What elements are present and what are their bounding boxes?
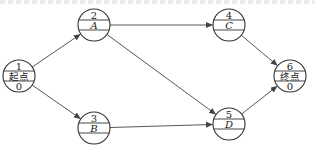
node-4: 4C	[213, 9, 245, 41]
edge-3-to-5	[110, 124, 213, 127]
nodes: 1起点02A3B4C5D6终点0	[3, 9, 306, 144]
node-label: D	[224, 119, 233, 130]
node-label: C	[225, 20, 233, 31]
edge-2-to-5	[107, 34, 216, 114]
edges	[32, 25, 277, 128]
network-diagram: 1起点02A3B4C5D6终点0	[0, 0, 315, 151]
node-label: A	[89, 20, 97, 31]
node-2: 2A	[78, 9, 110, 41]
node-duration: 0	[287, 81, 293, 92]
node-label: 起点	[9, 71, 29, 82]
edge-1-to-3	[32, 85, 80, 118]
node-label: B	[89, 123, 97, 134]
edge-5-to-6	[242, 86, 277, 114]
edge-4-to-6	[241, 35, 277, 65]
node-6: 6终点0	[274, 60, 306, 92]
node-3: 3B	[78, 112, 110, 144]
node-5: 5D	[213, 108, 245, 140]
node-label: 终点	[280, 71, 300, 82]
edge-1-to-2	[32, 34, 80, 67]
node-1: 1起点0	[3, 60, 35, 92]
node-duration: 0	[16, 81, 22, 92]
